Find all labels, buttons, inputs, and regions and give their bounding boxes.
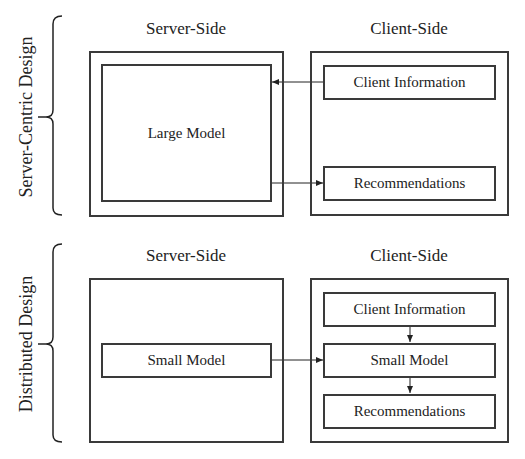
client-information-label: Client Information bbox=[353, 74, 465, 91]
small-model-label: Small Model bbox=[371, 352, 449, 369]
section-title-server-centric: Server-Centric Design bbox=[16, 36, 37, 197]
client-side-label: Client-Side bbox=[370, 246, 447, 266]
large-model-node: Large Model bbox=[101, 64, 272, 202]
server-side-label: Server-Side bbox=[146, 19, 226, 39]
client-information-node: Client Information bbox=[323, 65, 496, 100]
brace-server-centric bbox=[38, 16, 62, 215]
brace-distributed bbox=[38, 244, 62, 442]
recommendations-node: Recommendations bbox=[323, 166, 496, 201]
recommendations-node: Recommendations bbox=[323, 394, 496, 429]
section-title-distributed: Distributed Design bbox=[16, 276, 37, 413]
recommendations-label: Recommendations bbox=[354, 175, 466, 192]
large-model-label: Large Model bbox=[148, 125, 226, 142]
server-side-label: Server-Side bbox=[146, 246, 226, 266]
small-model-label: Small Model bbox=[148, 352, 226, 369]
server-small-model-node: Small Model bbox=[101, 343, 272, 378]
client-information-node: Client Information bbox=[323, 292, 496, 327]
client-small-model-node: Small Model bbox=[323, 343, 496, 378]
architecture-diagram: Server-Centric Design Server-Side Client… bbox=[0, 0, 525, 459]
client-side-label: Client-Side bbox=[370, 19, 447, 39]
recommendations-label: Recommendations bbox=[354, 403, 466, 420]
client-information-label: Client Information bbox=[353, 301, 465, 318]
